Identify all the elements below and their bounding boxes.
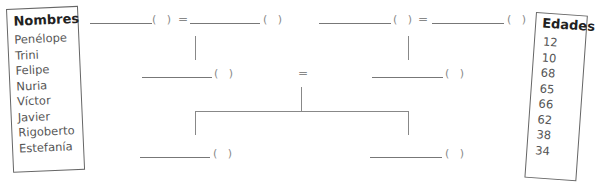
connector-line <box>408 36 409 60</box>
connector-line <box>301 87 302 112</box>
connector-line <box>408 111 409 135</box>
grandparent-slot-2[interactable]: ( ) <box>190 12 290 26</box>
connector-line <box>195 36 196 60</box>
marriage-equals: = <box>418 12 428 26</box>
marriage-equals: = <box>178 12 188 26</box>
age-paren: ( ) <box>263 13 282 26</box>
name-item: Rigoberto <box>18 123 83 141</box>
age-paren: ( ) <box>152 13 171 26</box>
age-paren: ( ) <box>507 13 526 26</box>
blank-line[interactable] <box>432 23 504 24</box>
connector-line <box>195 111 196 135</box>
blank-line[interactable] <box>190 23 260 24</box>
ages-box: Edades 12 10 68 65 66 62 38 34 <box>524 12 587 181</box>
blank-line[interactable] <box>319 23 391 24</box>
age-paren: ( ) <box>213 147 232 160</box>
age-item: 34 <box>533 143 578 162</box>
marriage-equals: = <box>298 66 308 80</box>
grandparent-slot-4[interactable]: ( ) <box>432 12 532 26</box>
age-paren: ( ) <box>214 67 233 80</box>
blank-line[interactable] <box>140 157 210 158</box>
grandparent-slot-1[interactable]: ( ) <box>90 12 180 26</box>
blank-line[interactable] <box>90 23 152 24</box>
child-slot-2[interactable]: ( ) <box>370 146 470 160</box>
grandparent-slot-3[interactable]: ( ) <box>319 12 409 26</box>
age-paren: ( ) <box>393 13 412 26</box>
ages-title: Edades <box>542 15 587 33</box>
name-item: Estefanía <box>19 138 84 156</box>
names-box: Nombres Penélope Trini Felipe Nuria Víct… <box>6 6 85 173</box>
names-title: Nombres <box>13 11 78 29</box>
child-slot-1[interactable]: ( ) <box>140 146 240 160</box>
blank-line[interactable] <box>142 77 212 78</box>
age-paren: ( ) <box>445 147 464 160</box>
parent-slot-1[interactable]: ( ) <box>142 66 242 80</box>
blank-line[interactable] <box>372 77 443 78</box>
connector-line <box>195 111 408 112</box>
blank-line[interactable] <box>370 157 442 158</box>
age-paren: ( ) <box>445 67 464 80</box>
parent-slot-2[interactable]: ( ) <box>372 66 472 80</box>
